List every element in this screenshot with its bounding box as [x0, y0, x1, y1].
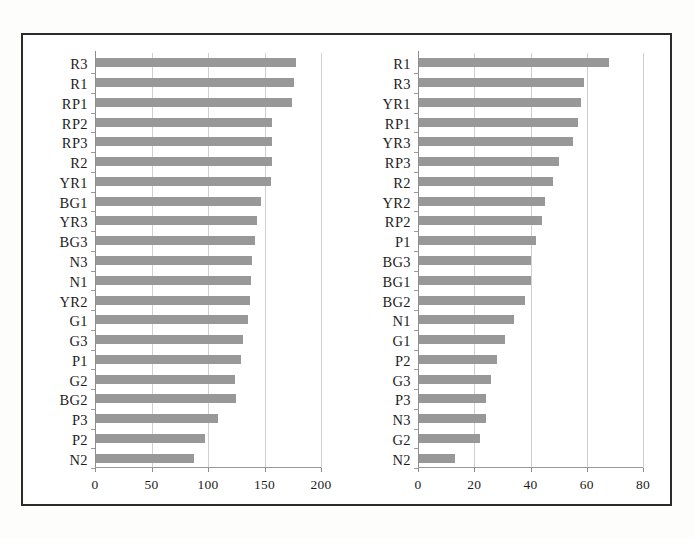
bar-row: G1: [95, 310, 321, 330]
bar-row: R2: [95, 152, 321, 172]
left-y-axis: [95, 51, 96, 468]
bar-row: BG3: [418, 251, 643, 271]
category-label: RP3: [385, 156, 411, 171]
category-label: P1: [395, 235, 411, 250]
figure-border: R3R1RP1RP2RP3R2YR1BG1YR3BG3N3N1YR2G1G3P1…: [21, 33, 672, 506]
bar: [95, 454, 194, 463]
bar-row: YR1: [418, 93, 643, 113]
bar: [418, 276, 531, 285]
bar: [95, 375, 235, 384]
x-tick-label: 60: [580, 477, 594, 493]
bar: [418, 58, 609, 67]
bar-row: R1: [95, 73, 321, 93]
x-axis-tick: [95, 468, 96, 472]
bar: [418, 414, 486, 423]
category-label: N2: [69, 453, 88, 468]
bar: [418, 394, 486, 403]
bar: [95, 335, 243, 344]
bar-row: P3: [418, 389, 643, 409]
category-label: R1: [70, 77, 88, 92]
bar: [95, 315, 248, 324]
bar-row: BG2: [95, 389, 321, 409]
bar: [418, 375, 491, 384]
category-label: YR1: [382, 97, 411, 112]
bar-row: R2: [418, 172, 643, 192]
x-axis-tick: [587, 468, 588, 472]
left-x-tick-labels: 050100150200: [95, 477, 321, 495]
x-tick-label: 40: [523, 477, 537, 493]
x-tick-label: 200: [310, 477, 331, 493]
right-y-axis: [418, 51, 419, 468]
bar: [95, 157, 272, 166]
category-label: BG3: [59, 235, 88, 250]
bar-row: P1: [418, 231, 643, 251]
category-label: P3: [395, 393, 411, 408]
bar: [418, 118, 578, 127]
bar: [418, 296, 525, 305]
x-tick-label: 0: [91, 477, 98, 493]
bar-row: P2: [418, 349, 643, 369]
category-label: R2: [393, 176, 411, 191]
category-label: N3: [392, 413, 411, 428]
bar-row: YR3: [418, 132, 643, 152]
bar-row: N3: [418, 409, 643, 429]
bar: [95, 236, 255, 245]
bar-row: RP1: [418, 112, 643, 132]
category-label: R3: [393, 77, 411, 92]
right-plot-area: R1R3YR1RP1YR3RP3R2YR2RP2P1BG3BG1BG2N1G1P…: [418, 53, 643, 468]
bar: [418, 335, 505, 344]
bar: [418, 434, 480, 443]
bar-row: N2: [95, 448, 321, 468]
category-label: BG1: [59, 196, 88, 211]
gridline: [643, 53, 644, 468]
x-tick-label: 50: [144, 477, 158, 493]
bar: [95, 78, 294, 87]
x-axis-tick: [265, 468, 266, 472]
x-tick-label: 150: [254, 477, 275, 493]
bar: [95, 394, 236, 403]
category-label: YR3: [59, 215, 88, 230]
bar-row: YR2: [418, 191, 643, 211]
bar: [95, 98, 292, 107]
x-axis-tick: [208, 468, 209, 472]
bar: [95, 296, 250, 305]
bar-row: BG3: [95, 231, 321, 251]
bar: [418, 454, 455, 463]
bar-row: BG1: [418, 270, 643, 290]
category-label: P1: [72, 354, 88, 369]
category-label: R3: [70, 57, 88, 72]
bar-row: RP2: [418, 211, 643, 231]
right-bar-chart-panel: R1R3YR1RP1YR3RP3R2YR2RP2P1BG3BG1BG2N1G1P…: [350, 38, 671, 501]
bar: [95, 58, 296, 67]
category-label: RP1: [385, 117, 411, 132]
category-label: RP1: [62, 97, 88, 112]
category-label: G2: [392, 433, 411, 448]
bar-row: G3: [418, 369, 643, 389]
x-axis-tick: [531, 468, 532, 472]
bar-row: G2: [418, 428, 643, 448]
x-tick-label: 80: [636, 477, 650, 493]
category-label: N2: [392, 453, 411, 468]
bar-row: RP3: [418, 152, 643, 172]
figure-inner-area: R3R1RP1RP2RP3R2YR1BG1YR3BG3N3N1YR2G1G3P1…: [26, 38, 667, 501]
bar: [418, 177, 553, 186]
bar-row: P3: [95, 409, 321, 429]
category-label: G1: [392, 334, 411, 349]
figure-page: R3R1RP1RP2RP3R2YR1BG1YR3BG3N3N1YR2G1G3P1…: [0, 0, 695, 539]
category-label: YR1: [59, 176, 88, 191]
category-label: G1: [69, 314, 88, 329]
bar: [418, 78, 584, 87]
bar-row: N1: [418, 310, 643, 330]
x-tick-label: 100: [197, 477, 218, 493]
bar: [418, 315, 514, 324]
x-axis-tick: [152, 468, 153, 472]
category-label: BG2: [59, 393, 88, 408]
bar-row: YR1: [95, 172, 321, 192]
category-label: N1: [392, 314, 411, 329]
bar-row: G2: [95, 369, 321, 389]
category-label: P2: [395, 354, 411, 369]
bar: [418, 355, 497, 364]
bar: [418, 98, 581, 107]
bar: [95, 216, 257, 225]
bar-row: BG1: [95, 191, 321, 211]
